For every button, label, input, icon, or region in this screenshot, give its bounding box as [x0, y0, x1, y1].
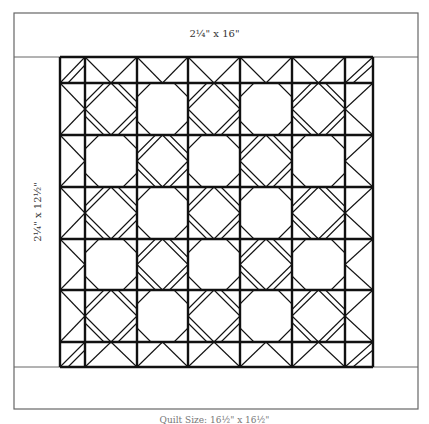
diamond-edge	[85, 83, 111, 109]
strip-diagonal	[345, 109, 373, 135]
diamond-edge	[214, 109, 240, 135]
octagon-corner	[331, 173, 345, 187]
octagon-corner	[85, 276, 99, 290]
diamond-edge	[85, 316, 111, 342]
octagon-corner	[188, 135, 202, 149]
octagon-corner	[137, 121, 151, 135]
diamond-edge	[111, 187, 137, 213]
diamond-edge	[319, 213, 346, 239]
strip-diagonal	[60, 239, 85, 265]
strip-diagonal	[266, 57, 292, 83]
octagon-corner	[137, 290, 151, 304]
diamond-edge	[188, 83, 214, 109]
diamond-edge	[111, 109, 137, 135]
strip-diagonal	[60, 213, 85, 239]
strip-diagonal	[60, 109, 85, 135]
octagon-corner	[85, 135, 99, 149]
diamond-edge	[111, 213, 137, 239]
diamond-edge	[292, 213, 319, 239]
diamond-edge	[111, 316, 137, 342]
octagon-corner	[278, 328, 292, 342]
octagon-corner	[188, 276, 202, 290]
octagon-corner	[123, 173, 137, 187]
strip-diagonal	[345, 187, 373, 213]
octagon-corner	[278, 290, 292, 304]
octagon-corner	[174, 83, 188, 97]
diamond-edge	[240, 161, 266, 187]
quilt-diagram	[0, 0, 429, 424]
octagon-corner	[292, 173, 306, 187]
octagon-corner	[188, 173, 202, 187]
strip-diagonal	[345, 83, 373, 109]
quilt-grid	[60, 57, 373, 367]
strip-diagonal	[345, 213, 373, 239]
diamond-edge	[85, 109, 111, 135]
octagon-corner	[226, 135, 240, 149]
diamond-edge	[188, 187, 214, 213]
octagon-corner	[278, 83, 292, 97]
quilt-size-caption: Quilt Size: 16½" x 16½"	[0, 415, 429, 424]
octagon-corner	[137, 83, 151, 97]
diamond-edge	[111, 83, 137, 109]
octagon-corner	[331, 135, 345, 149]
strip-diagonal	[345, 265, 373, 291]
octagon-corner	[174, 328, 188, 342]
octagon-corner	[226, 173, 240, 187]
strip-diagonal	[85, 57, 111, 83]
side-border-dimension-label: 2¼" x 12½"	[32, 182, 43, 242]
octagon-corner	[174, 121, 188, 135]
strip-diagonal	[345, 239, 373, 265]
diamond-edge	[137, 135, 163, 161]
octagon-corner	[331, 276, 345, 290]
diamond-edge	[188, 290, 214, 316]
strip-diagonal	[214, 342, 240, 367]
strip-diagonal	[266, 342, 292, 367]
octagon-corner	[240, 328, 254, 342]
octagon-corner	[85, 173, 99, 187]
diamond-edge	[266, 265, 292, 291]
corner-diagonal	[60, 57, 85, 83]
strip-diagonal	[345, 290, 373, 316]
octagon-corner	[174, 187, 188, 201]
top-border-dimension-label: 2¼" x 16"	[0, 28, 429, 39]
diamond-edge	[240, 239, 266, 265]
strip-diagonal	[60, 290, 85, 316]
border-frame	[14, 13, 418, 409]
diamond-edge	[163, 161, 189, 187]
diamond-edge	[319, 290, 346, 316]
corner-diagonal	[68, 65, 85, 83]
corner-diagonal	[353, 350, 373, 367]
strip-diagonal	[60, 265, 85, 291]
strip-diagonal	[188, 57, 214, 83]
diamond-edge	[319, 83, 346, 109]
block-diagonals	[60, 57, 373, 367]
diamond-edge	[292, 109, 319, 135]
octagon-corner	[174, 290, 188, 304]
strip-diagonal	[60, 316, 85, 342]
strip-diagonal	[111, 342, 137, 367]
diamond-edge	[214, 187, 240, 213]
octagon-corner	[174, 225, 188, 239]
diamond-edge	[163, 135, 189, 161]
diamond-edge	[319, 187, 346, 213]
octagon-corner	[240, 83, 254, 97]
strip-diagonal	[319, 342, 346, 367]
diamond-edge	[240, 265, 266, 291]
outer-border-rect	[14, 13, 418, 409]
octagon-corner	[278, 187, 292, 201]
diamond-edge	[85, 213, 111, 239]
octagon-corner	[123, 239, 137, 253]
diamond-edge	[137, 239, 163, 265]
strip-diagonal	[137, 342, 163, 367]
strip-diagonal	[345, 161, 373, 187]
diamond-edge	[214, 213, 240, 239]
octagon-corner	[188, 239, 202, 253]
strip-diagonal	[345, 316, 373, 342]
strip-diagonal	[60, 161, 85, 187]
strip-diagonal	[292, 57, 319, 83]
octagon-corner	[226, 239, 240, 253]
octagon-corner	[278, 121, 292, 135]
diamond-edge	[85, 187, 111, 213]
diamond-edge	[85, 290, 111, 316]
strip-diagonal	[163, 342, 189, 367]
